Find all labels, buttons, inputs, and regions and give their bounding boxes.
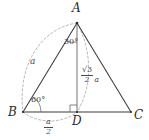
fraction-stack-ad: √3 2	[81, 66, 93, 85]
dashed-arc-group	[22, 23, 89, 121]
vertex-label-a: A	[72, 2, 81, 14]
vertex-dot-b	[22, 111, 24, 113]
fraction-numerator-ad: √3	[81, 66, 93, 74]
fraction-denominator-bd: 2	[45, 128, 52, 136]
vertex-dot-a	[76, 22, 79, 25]
geometry-figure: A B C D 30° 60° a a 2 √3 2 a	[0, 0, 149, 140]
vertex-label-b: B	[8, 106, 17, 118]
fraction-stack-bd: a 2	[44, 118, 53, 137]
vertex-label-c: C	[134, 109, 143, 121]
vertex-dot-c	[130, 111, 132, 113]
fraction-numerator-bd: a	[45, 118, 52, 126]
vertex-label-d: D	[72, 115, 82, 127]
angle-label-at-b: 60°	[31, 96, 45, 104]
measure-label-segment-bd: a 2	[44, 118, 53, 137]
vertex-dot-d	[76, 111, 78, 113]
fraction-suffix-ad: a	[94, 76, 99, 85]
right-angle-marker-at-d	[70, 105, 77, 112]
angle-label-at-a: 30°	[64, 38, 78, 46]
measure-label-altitude-ad: √3 2 a	[81, 66, 99, 85]
fraction-denominator-ad: 2	[84, 76, 91, 84]
measure-label-side-ab: a	[30, 57, 35, 66]
